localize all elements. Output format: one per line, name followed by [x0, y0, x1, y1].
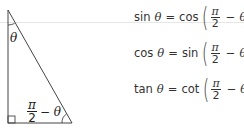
minus-theta: − θ	[40, 105, 61, 119]
top-angle-label: θ	[10, 31, 17, 45]
identity-cos: cos θ = sin ( π2 − θ )	[134, 40, 244, 66]
right-angle-marker	[8, 116, 15, 123]
identity-sin: sin θ = cos ( π2 − θ )	[134, 4, 244, 30]
two-denominator: 2	[28, 112, 36, 124]
identity-tan: tan θ = cot ( π2 − θ )	[134, 76, 244, 102]
top-angle-arc	[8, 24, 15, 26]
bottom-angle-arc	[62, 114, 67, 123]
bottom-angle-label: π 2 − θ	[27, 99, 61, 124]
